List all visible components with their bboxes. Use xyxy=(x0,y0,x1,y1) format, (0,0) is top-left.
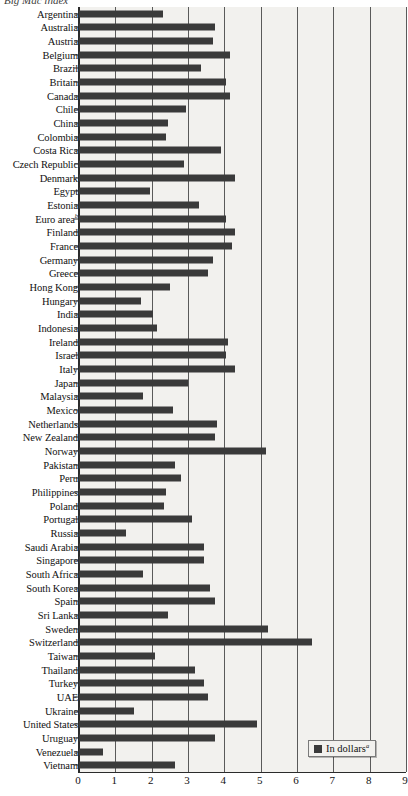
bar xyxy=(79,297,141,304)
bar xyxy=(79,543,204,550)
bar-row: Singapore xyxy=(0,553,408,567)
y-axis-tick xyxy=(74,532,78,533)
x-tick-label-1: 1 xyxy=(112,774,118,787)
y-axis-tick xyxy=(74,136,78,137)
y-axis-tick xyxy=(74,751,78,752)
bar-row: Peru xyxy=(0,471,408,485)
bar-row: South Korea xyxy=(0,581,408,595)
category-label: United States xyxy=(23,719,78,730)
x-tick-label-7: 7 xyxy=(330,774,336,787)
y-axis-tick xyxy=(74,27,78,28)
bar xyxy=(79,529,126,536)
bar-row: Ireland xyxy=(0,335,408,349)
y-axis-tick xyxy=(74,409,78,410)
bar xyxy=(79,475,181,482)
x-axis-line xyxy=(78,772,406,773)
bar-row: Australia xyxy=(0,21,408,35)
bar xyxy=(79,379,188,386)
category-label: Portugal xyxy=(43,514,78,525)
bar xyxy=(79,256,213,263)
bar-row: Germany xyxy=(0,253,408,267)
y-axis-tick xyxy=(74,205,78,206)
y-axis-tick xyxy=(74,601,78,602)
bar xyxy=(79,202,199,209)
bar xyxy=(79,338,228,345)
bar xyxy=(79,10,163,17)
bar-row: Canada xyxy=(0,89,408,103)
bar xyxy=(79,65,201,72)
bar xyxy=(79,174,235,181)
category-label: Colombia xyxy=(37,131,78,142)
y-axis-tick xyxy=(74,191,78,192)
bar xyxy=(79,488,166,495)
bar-row: South Africa xyxy=(0,567,408,581)
bar-row: Estonia xyxy=(0,198,408,212)
bar xyxy=(79,461,175,468)
y-axis-tick xyxy=(74,669,78,670)
bar-row: Sweden xyxy=(0,622,408,636)
x-tick-label-9: 9 xyxy=(402,774,408,787)
category-label: Costa Rica xyxy=(33,145,78,156)
bar xyxy=(79,24,215,31)
bar xyxy=(79,393,143,400)
bar xyxy=(79,611,168,618)
legend-label-superscript: a xyxy=(366,742,369,749)
bar-row: Colombia xyxy=(0,130,408,144)
bar-row: Norway xyxy=(0,444,408,458)
category-label: Australia xyxy=(40,22,78,33)
bar xyxy=(79,721,257,728)
x-tick-label-4: 4 xyxy=(221,774,227,787)
y-axis-tick xyxy=(74,82,78,83)
bar-row: Hong Kong xyxy=(0,280,408,294)
bar-row: Netherlands xyxy=(0,417,408,431)
bar-row: Argentina xyxy=(0,7,408,21)
category-label: Czech Republic xyxy=(13,159,78,170)
category-label: Uruguay xyxy=(42,732,78,743)
y-axis-tick xyxy=(74,13,78,14)
y-axis-tick xyxy=(74,355,78,356)
legend-label-text: In dollars xyxy=(326,743,366,754)
bar-row: Greece xyxy=(0,267,408,281)
category-label: New Zealand xyxy=(23,432,78,443)
category-label: Euro areab xyxy=(35,213,78,224)
bar-row: France xyxy=(0,239,408,253)
bar-row: China xyxy=(0,116,408,130)
y-axis-tick xyxy=(74,450,78,451)
bar-row: India xyxy=(0,308,408,322)
bar xyxy=(79,584,210,591)
bar-row: Denmark xyxy=(0,171,408,185)
y-axis-tick xyxy=(74,614,78,615)
category-label: Pakistan xyxy=(43,459,78,470)
category-label: Philippines xyxy=(32,486,78,497)
y-axis-tick xyxy=(74,765,78,766)
bar xyxy=(79,325,157,332)
y-axis-tick xyxy=(74,164,78,165)
y-axis-tick xyxy=(74,505,78,506)
bar xyxy=(79,120,168,127)
clipped-caption: Big Mac index xyxy=(0,0,408,7)
bar-row: Italy xyxy=(0,362,408,376)
bar-row: Czech Republic xyxy=(0,157,408,171)
bar-row: Britain xyxy=(0,75,408,89)
category-label: Netherlands xyxy=(28,418,78,429)
y-axis-tick xyxy=(74,423,78,424)
bar-row: Euro areab xyxy=(0,212,408,226)
bar xyxy=(79,161,184,168)
y-axis-tick xyxy=(74,737,78,738)
bar-row: Japan xyxy=(0,376,408,390)
category-label: Denmark xyxy=(40,172,78,183)
bar xyxy=(79,666,195,673)
y-axis-tick xyxy=(74,683,78,684)
y-axis-tick xyxy=(74,123,78,124)
bar xyxy=(79,762,175,769)
y-axis-tick xyxy=(74,724,78,725)
y-axis-tick xyxy=(74,478,78,479)
y-axis-tick xyxy=(74,642,78,643)
bar xyxy=(79,352,226,359)
bar xyxy=(79,748,103,755)
bar-row: Portugal xyxy=(0,512,408,526)
bar-row: Mexico xyxy=(0,403,408,417)
legend-swatch-icon xyxy=(314,745,322,753)
bar xyxy=(79,311,153,318)
y-axis-tick xyxy=(74,314,78,315)
